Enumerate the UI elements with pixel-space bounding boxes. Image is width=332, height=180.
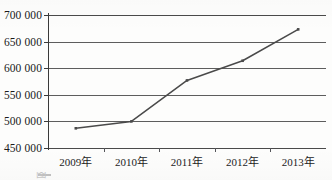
figure-caption-strip: 图 bbox=[0, 172, 332, 180]
line-chart-figure: 450 000500 000550 000600 000650 000700 0… bbox=[0, 0, 332, 180]
data-series-layer bbox=[0, 0, 332, 180]
data-point-marker bbox=[186, 79, 189, 82]
series-marker-group bbox=[75, 28, 300, 130]
data-point-marker bbox=[75, 127, 78, 130]
figure-caption: 图 bbox=[36, 172, 46, 180]
data-point-marker bbox=[297, 28, 300, 31]
data-point-marker bbox=[241, 59, 244, 62]
data-point-marker bbox=[130, 120, 133, 123]
series-line bbox=[76, 29, 298, 128]
